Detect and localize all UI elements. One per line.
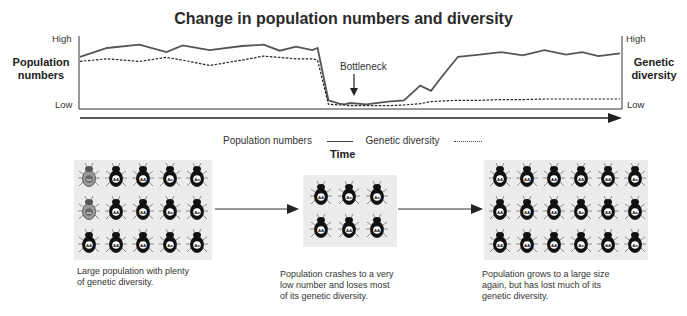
beetle-icon: AA [132,229,154,255]
beetle-AA: AA [132,229,154,255]
svg-text:AA: AA [318,195,324,200]
svg-text:AA: AA [140,177,146,182]
beetle-icon: AA [105,229,127,255]
beetle-icon: AA [105,196,127,222]
beetle-icon: Aa [624,196,646,222]
beetle-Aa: Aa [159,163,181,189]
caption-before-line-2: of genetic diversity. [77,277,189,288]
beetle-AA: AA [105,196,127,222]
beetle-icon: Aa [366,181,388,207]
svg-text:Aa: Aa [578,243,584,248]
caption-bottleneck-line-1: Population crashes to a very [280,269,394,280]
beetle-Aa: Aa [366,181,388,207]
caption-bottleneck-line-2: low number and loses most [280,280,394,291]
beetle-icon: Aa [186,229,208,255]
caption-after-line-3: genetic diversity. [482,291,610,302]
svg-text:AA: AA [524,243,530,248]
caption-after: Population grows to a large size again, … [482,269,610,302]
panel-after-beetles: AAAAAAAAAAAaAAAAAAAaAAAaAAAAAAAaAAAa [484,160,648,260]
beetle-icon: AA [516,196,538,222]
beetle-icon: AA [597,163,619,189]
x-axis-title: Time [330,148,355,160]
svg-text:AA: AA [524,177,530,182]
beetle-Aa: Aa [159,196,181,222]
beetle-icon: AA [543,196,565,222]
beetle-AA: AA [489,196,511,222]
beetle-Aa: Aa [159,229,181,255]
beetle-AA: AA [516,229,538,255]
svg-text:AA: AA [140,243,146,248]
flow-arrow-1 [215,203,300,215]
flow-arrow-2 [398,203,484,215]
time-arrow-head [608,113,622,123]
beetle-AA: AA [597,163,619,189]
beetle-AA: AA [310,214,332,240]
series-layer [80,45,620,106]
beetle-AA: AA [597,196,619,222]
beetle-icon: AA [597,196,619,222]
beetle-Aa: Aa [570,196,592,222]
beetle-icon: Aa [159,163,181,189]
beetle-AA: AA [597,229,619,255]
panel-bottleneck-beetles: AAAaAaAAAAAA [303,175,397,247]
beetle-icon: AA [489,163,511,189]
beetle-icon: Aa [570,229,592,255]
caption-before: Large population with plenty of genetic … [77,266,189,288]
caption-after-line-2: again, but has lost much of its [482,280,610,291]
beetle-icon: aa [78,196,100,222]
svg-text:Aa: Aa [632,177,638,182]
beetle-icon: AA [516,163,538,189]
legend-diversity-label: Genetic diversity [366,135,440,146]
legend-dotted-line-swatch [454,141,482,142]
beetle-icon: AA [543,163,565,189]
population-numbers-line [80,45,620,105]
svg-text:Aa: Aa [374,195,380,200]
beetle-AA: AA [489,229,511,255]
beetle-AA: AA [516,163,538,189]
beetle-AA: AA [543,196,565,222]
svg-text:AA: AA [551,177,557,182]
beetle-AA: AA [516,196,538,222]
beetle-AA: AA [105,229,127,255]
svg-text:AA: AA [524,210,530,215]
beetle-icon: AA [543,229,565,255]
svg-text:AA: AA [374,228,380,233]
beetle-Aa: Aa [186,196,208,222]
beetle-icon: Aa [624,229,646,255]
beetle-AA: AA [489,163,511,189]
beetle-AA: AA [132,163,154,189]
beetle-aa: aa [78,196,100,222]
beetle-Aa: Aa [186,163,208,189]
beetle-icon: AA [489,196,511,222]
beetle-icon: Aa [624,163,646,189]
beetle-icon: Aa [186,163,208,189]
svg-text:AA: AA [86,243,92,248]
panel-before-beetles: aaAAAAAaAaaaAAAAAaAaAAAAAAAaAa [74,160,212,260]
svg-text:AA: AA [113,177,119,182]
beetle-AA: AA [78,229,100,255]
caption-bottleneck-line-3: of its genetic diversity. [280,291,394,302]
svg-text:AA: AA [551,243,557,248]
beetle-icon: AA [366,214,388,240]
beetle-icon: Aa [159,196,181,222]
svg-text:AA: AA [113,243,119,248]
svg-text:AA: AA [318,228,324,233]
svg-text:AA: AA [605,243,611,248]
beetle-AA: AA [543,229,565,255]
line-chart [0,0,687,150]
svg-text:Aa: Aa [167,243,173,248]
svg-text:Aa: Aa [346,195,352,200]
svg-text:AA: AA [578,177,584,182]
beetle-icon: AA [132,163,154,189]
svg-text:AA: AA [551,210,557,215]
beetle-Aa: Aa [186,229,208,255]
beetle-icon: AA [597,229,619,255]
beetle-AA: AA [310,181,332,207]
svg-text:AA: AA [346,228,352,233]
svg-text:AA: AA [497,177,503,182]
beetle-icon: AA [310,214,332,240]
beetle-Aa: Aa [624,229,646,255]
bottleneck-arrow-head [350,88,358,96]
legend-solid-line-swatch [327,141,353,142]
beetle-Aa: Aa [624,196,646,222]
